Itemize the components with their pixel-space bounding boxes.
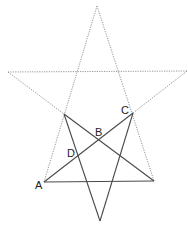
label-A: A (35, 179, 43, 191)
star-edge-left-to-inner-left (8, 72, 64, 114)
segment-inner-left-to-bottom-right (64, 114, 154, 181)
label-D: D (67, 147, 75, 159)
pentagram-diagram: A B C D (0, 0, 188, 225)
diagram-canvas: A B C D (0, 0, 188, 225)
label-B: B (95, 126, 102, 138)
segment-C-to-bottom (100, 113, 133, 221)
segment-A-to-bottom-right (44, 181, 154, 182)
star-edge-top-to-bottom-right (97, 6, 154, 181)
label-C: C (121, 104, 129, 116)
star-edge-right-to-C (133, 71, 187, 113)
segment-A-to-C (44, 113, 133, 182)
star-edge-left-to-right (8, 71, 187, 72)
